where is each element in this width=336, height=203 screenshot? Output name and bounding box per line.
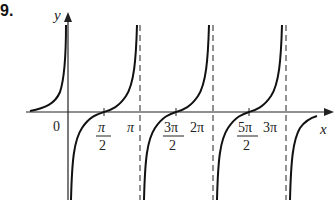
branch-right — [290, 116, 317, 200]
tick-label-three-pi-half-num: 3π — [164, 120, 178, 135]
tick-label-three-pi: 3π — [263, 120, 277, 135]
tick-label-pi-half-den: 2 — [99, 138, 106, 153]
tick-label-pi: π — [127, 120, 135, 135]
x-axis-arrow-icon — [324, 108, 334, 116]
origin-label: 0 — [53, 119, 60, 134]
y-axis-label: y — [52, 7, 61, 23]
tick-label-five-pi-half-den: 2 — [243, 138, 250, 153]
tick-label-five-pi-half-num: 5π — [238, 120, 252, 135]
x-axis-label: x — [319, 121, 327, 137]
branch-left — [30, 25, 66, 111]
cotangent-graph: y x 0 π 2 π 3π 2 2π 5π 2 3π — [0, 0, 336, 203]
tick-label-three-pi-half-den: 2 — [169, 138, 176, 153]
tick-label-pi-half-num: π — [98, 120, 106, 135]
y-axis-arrow-icon — [64, 12, 72, 22]
tick-label-two-pi: 2π — [190, 120, 204, 135]
